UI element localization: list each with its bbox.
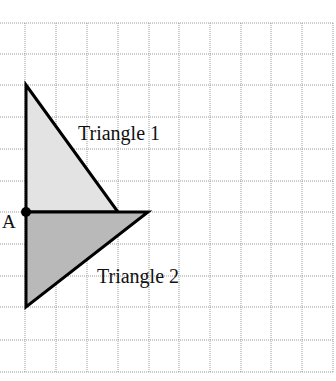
grid-diagram: A Triangle 1 Triangle 2 [0,0,336,381]
triangle-2-label: Triangle 2 [97,265,179,288]
triangle-1-label: Triangle 1 [78,122,160,145]
triangle-2 [26,212,148,307]
point-a-marker [21,207,31,217]
point-a-label: A [2,211,16,232]
